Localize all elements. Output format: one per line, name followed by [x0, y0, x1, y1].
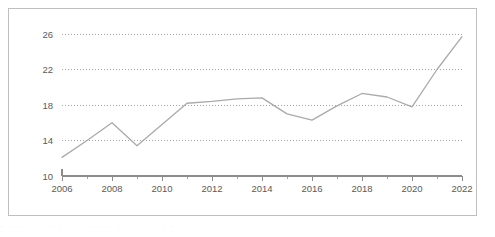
x-tick-label-2022: 2022 — [451, 183, 472, 194]
x-axis-tick-label-group: 200620082010201220142016201820202022 — [51, 183, 472, 194]
x-tick-label-2006: 2006 — [51, 183, 72, 194]
data-series-line — [62, 37, 462, 158]
y-tick-label-18: 18 — [42, 100, 53, 111]
chart-figure: 1014182226 20062008201020122014201620182… — [0, 0, 495, 237]
footer-artifact-text: · · ·· · · ··· · ·· ····· · ·· · ·· · · — [0, 222, 495, 231]
y-tick-label-26: 26 — [42, 29, 53, 40]
x-tick-label-2010: 2010 — [151, 183, 172, 194]
x-tick-label-2018: 2018 — [351, 183, 372, 194]
x-tick-label-2012: 2012 — [201, 183, 222, 194]
y-tick-label-10: 10 — [42, 171, 53, 182]
y-axis-tick-label-group: 1014182226 — [42, 29, 53, 182]
x-tick-label-2016: 2016 — [301, 183, 322, 194]
gridline-group — [62, 34, 462, 141]
x-axis-line-group — [62, 169, 462, 176]
line-chart-plot: 1014182226 20062008201020122014201620182… — [0, 0, 495, 237]
x-tick-label-2020: 2020 — [401, 183, 422, 194]
data-series-line-group — [62, 37, 462, 158]
x-tick-label-2014: 2014 — [251, 183, 272, 194]
y-tick-label-22: 22 — [42, 64, 53, 75]
x-tick-label-2008: 2008 — [101, 183, 122, 194]
x-axis-tick-group — [62, 176, 462, 181]
y-tick-label-14: 14 — [42, 135, 53, 146]
footer-artifact-strip: · · ·· · · ··· · ·· ····· · ·· · ·· · · — [0, 222, 495, 236]
